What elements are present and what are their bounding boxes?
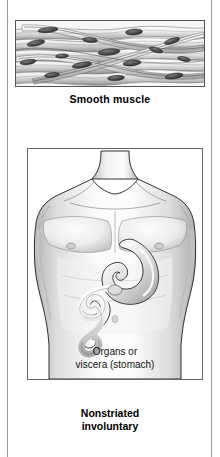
organs-viscera-panel: Organs or viscera (stomach)	[27, 148, 203, 380]
nipple-right	[155, 243, 163, 249]
smooth-muscle-tissue-illustration	[16, 21, 204, 86]
footer-line1: Nonstriated	[0, 407, 220, 420]
navel	[112, 315, 118, 322]
organs-caption-line1: Organs or	[28, 346, 202, 359]
smooth-muscle-caption: Smooth muscle	[0, 93, 220, 105]
organs-viscera-caption: Organs or viscera (stomach)	[28, 346, 202, 371]
smooth-muscle-tissue-panel	[15, 20, 205, 87]
torso-stomach-illustration	[28, 149, 202, 379]
page-rule-right	[211, 0, 212, 457]
page-rule-left	[7, 0, 8, 457]
nipple-left	[67, 243, 75, 249]
figure-page: Smooth muscle	[0, 0, 220, 457]
pylorus	[108, 285, 122, 295]
nonstriated-involuntary-caption: Nonstriated involuntary	[0, 407, 220, 433]
organs-caption-line2: viscera (stomach)	[28, 359, 202, 372]
footer-line2: involuntary	[0, 420, 220, 433]
